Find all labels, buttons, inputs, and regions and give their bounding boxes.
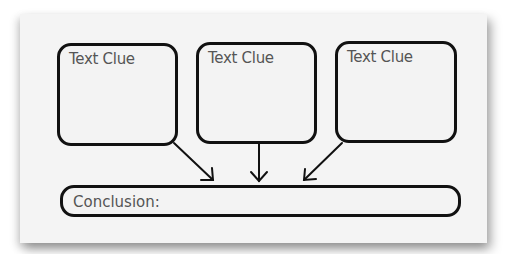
paper-card: Text Clue Text Clue Text Clue Conclusion…	[20, 14, 487, 243]
arrow-left-icon	[174, 143, 213, 180]
arrow-right-icon	[304, 143, 342, 180]
arrow-down-icon	[251, 144, 267, 181]
conclusion-bar: Conclusion:	[60, 185, 461, 217]
conclusion-label: Conclusion:	[73, 193, 160, 211]
